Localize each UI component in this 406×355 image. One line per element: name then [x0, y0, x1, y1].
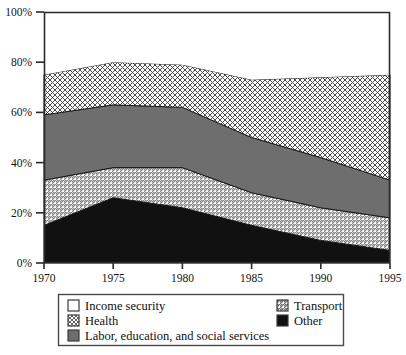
chart-legend: Income securityHealthLabor, education, a…: [59, 295, 344, 346]
x-tick-label: 1985: [240, 272, 263, 284]
x-tick-label: 1990: [309, 272, 332, 284]
legend-item-label: Labor, education, and social services: [85, 329, 269, 343]
legend-item-label: Health: [85, 314, 119, 328]
legend-item[interactable]: Other: [277, 314, 323, 328]
x-tick-label: 1995: [379, 272, 402, 284]
y-tick-label: 20%: [11, 207, 33, 219]
legend-item[interactable]: Transport: [277, 299, 343, 313]
legend-swatch-icon: [68, 300, 79, 311]
legend-item[interactable]: Health: [68, 314, 119, 328]
y-tick-label: 0%: [17, 257, 33, 269]
legend-swatch-icon: [68, 330, 79, 341]
x-axis-tick-labels: 197019751980198519901995: [33, 272, 402, 284]
stacked-area-chart: 0%20%40%60%80%100% 197019751980198519901…: [0, 0, 406, 355]
chart-root: 0%20%40%60%80%100% 197019751980198519901…: [0, 0, 406, 355]
legend-item-label: Income security: [85, 299, 166, 313]
x-axis-ticks: [44, 263, 390, 269]
legend-item-label: Transport: [294, 299, 343, 313]
legend-swatch-icon: [68, 315, 79, 326]
legend-swatch-icon: [277, 315, 288, 326]
y-tick-label: 40%: [11, 157, 33, 169]
y-tick-label: 100%: [5, 6, 32, 18]
series-areas: [44, 12, 390, 263]
x-tick-label: 1975: [102, 272, 125, 284]
legend-item[interactable]: Labor, education, and social services: [68, 329, 269, 343]
legend-swatch-icon: [277, 300, 288, 311]
y-axis-tick-labels: 0%20%40%60%80%100%: [5, 6, 32, 269]
x-tick-label: 1980: [171, 272, 194, 284]
y-tick-label: 60%: [11, 106, 33, 118]
legend-item-label: Other: [294, 314, 323, 328]
y-tick-label: 80%: [11, 56, 33, 68]
x-tick-label: 1970: [33, 272, 56, 284]
y-axis-ticks: [36, 12, 44, 263]
